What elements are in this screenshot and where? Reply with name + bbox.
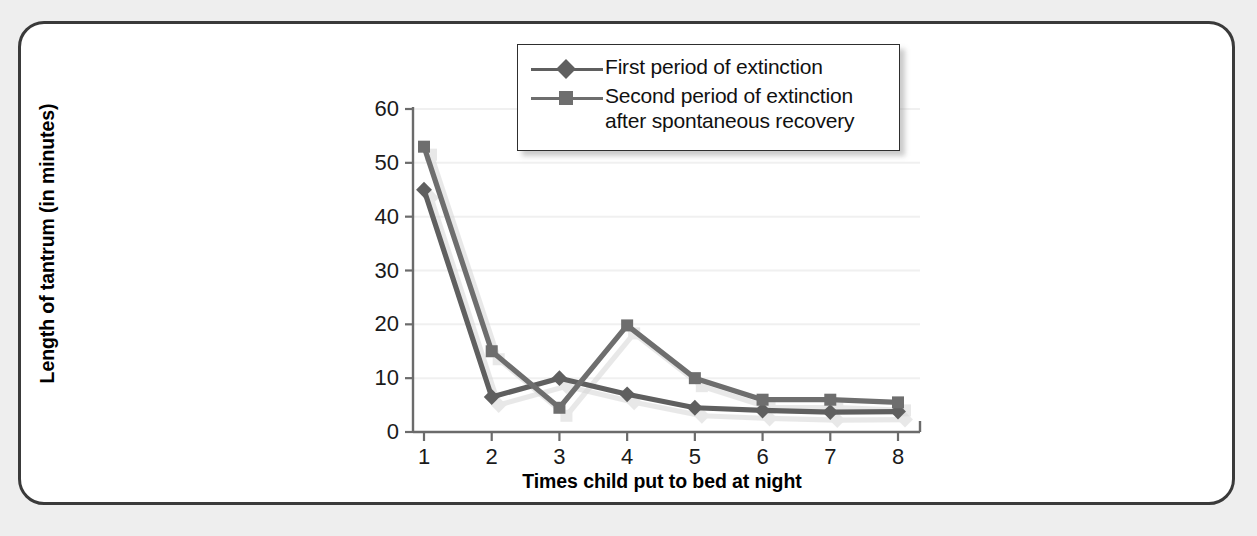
legend: First period of extinction Second period… bbox=[517, 44, 900, 151]
legend-item-second-period: Second period of extinction after sponta… bbox=[529, 83, 899, 133]
x-tick-label: 1 bbox=[404, 446, 444, 468]
x-tick-label: 5 bbox=[675, 446, 715, 468]
x-tick-label: 7 bbox=[810, 446, 850, 468]
diamond-marker-icon bbox=[556, 59, 576, 79]
y-axis-title: Length of tantrum (in minutes) bbox=[36, 79, 59, 409]
y-tick-label: 10 bbox=[353, 367, 399, 389]
y-tick-label: 0 bbox=[353, 421, 399, 443]
square-marker-icon bbox=[559, 91, 573, 105]
x-tick-label: 2 bbox=[472, 446, 512, 468]
legend-label-first-period: First period of extinction bbox=[605, 54, 823, 79]
series-shadow-layer bbox=[423, 149, 913, 428]
y-tick-label: 20 bbox=[353, 313, 399, 335]
x-tick-label: 8 bbox=[878, 446, 918, 468]
y-tick-label: 50 bbox=[353, 152, 399, 174]
x-tick-label: 6 bbox=[743, 446, 783, 468]
legend-swatch-diamond-icon bbox=[529, 56, 605, 82]
chart-area: Length of tantrum (in minutes) Times chi… bbox=[0, 0, 1257, 536]
x-tick-label: 4 bbox=[607, 446, 647, 468]
y-tick-label: 60 bbox=[353, 98, 399, 120]
x-axis-title: Times child put to bed at night bbox=[407, 470, 917, 493]
x-tick-label: 3 bbox=[539, 446, 579, 468]
y-tick-label: 30 bbox=[353, 260, 399, 282]
x-tick-marks bbox=[424, 432, 898, 441]
y-tick-label: 40 bbox=[353, 206, 399, 228]
legend-item-first-period: First period of extinction bbox=[529, 54, 899, 82]
legend-swatch-square-icon bbox=[529, 85, 605, 111]
legend-label-second-period: Second period of extinction after sponta… bbox=[605, 83, 854, 133]
